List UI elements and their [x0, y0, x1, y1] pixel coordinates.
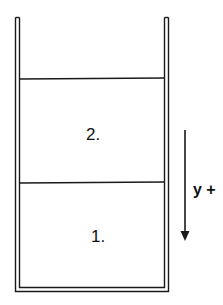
y-axis-label: y + — [193, 181, 216, 198]
arrow-down-icon — [181, 231, 190, 241]
container — [16, 18, 169, 292]
container-outer-wall — [16, 18, 169, 292]
upper-surface-line — [20, 78, 165, 79]
interface-line — [20, 182, 165, 183]
container-inner-wall — [20, 18, 165, 288]
layer-2-label: 2. — [86, 125, 100, 144]
layer-1-label: 1. — [91, 227, 105, 246]
y-axis-arrow — [181, 130, 190, 241]
two-layer-container-diagram: 2. 1. y + — [0, 0, 223, 305]
